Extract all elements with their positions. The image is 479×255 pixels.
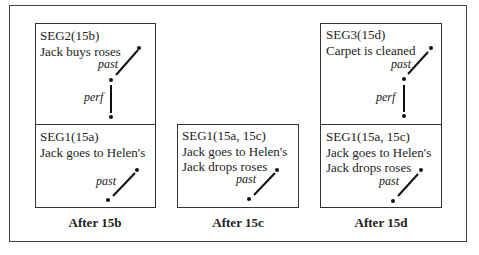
relation-lines bbox=[0, 0, 479, 255]
